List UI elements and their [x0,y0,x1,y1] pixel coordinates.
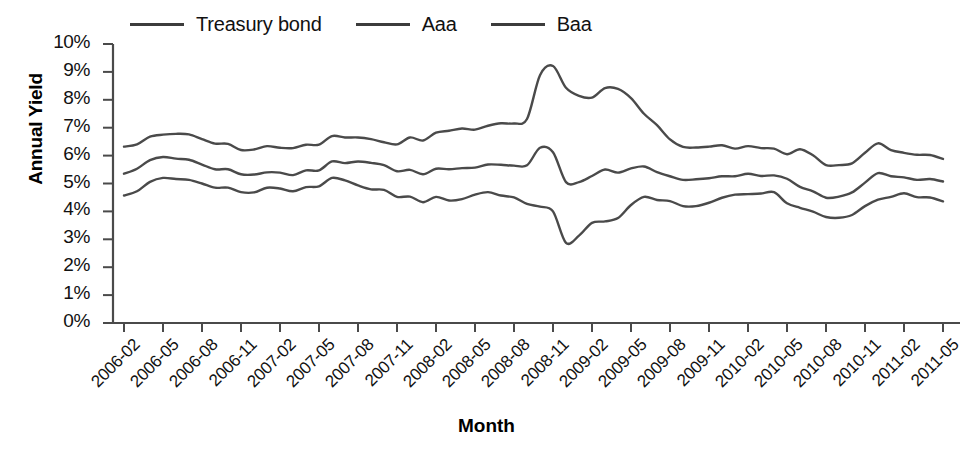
data-series-group [124,65,943,244]
series-line-treasury-bond [124,178,943,244]
line-chart: Treasury bond Aaa Baa Annual Yield Month… [0,0,973,451]
plot-area [0,0,973,451]
series-line-aaa [124,147,943,198]
series-line-baa [124,65,943,165]
